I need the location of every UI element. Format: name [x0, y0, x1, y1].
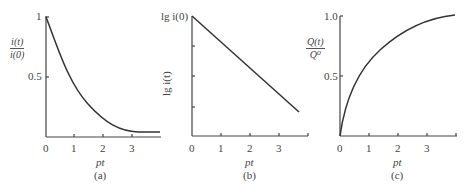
panel-c-caption: (c) [391, 170, 403, 181]
panel-b-xtick-1: 1 [218, 143, 224, 154]
panel-c-ylabel-numerator: Q(t) [306, 37, 325, 49]
panel-c-xtick-1: 1 [366, 143, 372, 154]
panel-a-ytick-0.5: 0.5 [28, 71, 42, 82]
panel-a-ylabel: i(t) i(0) [10, 37, 24, 60]
panel-c-ylabel: Q(t) Q⁰ [306, 37, 325, 60]
panel-b-ytick-top: lg i(0) [161, 11, 188, 22]
panel-b-xlabel: pt [245, 157, 254, 168]
panel-c-axes [340, 16, 457, 136]
panel-c-xlabel: pt [393, 157, 402, 168]
panel-c-ylabel-denominator: Q⁰ [306, 49, 325, 60]
panel-c-growth-curve [340, 15, 455, 136]
panel-b-axes [192, 16, 308, 136]
panel-a-xtick-0: 0 [43, 143, 49, 154]
panel-c-xtick-2: 2 [395, 143, 401, 154]
panel-b-log-line [192, 16, 299, 112]
panel-c-ytick-0.5: 0.5 [324, 71, 338, 82]
panel-b-xtick-0: 0 [189, 143, 195, 154]
panel-b-xtick-2: 2 [247, 143, 253, 154]
panel-b-caption: (b) [243, 170, 256, 181]
panel-a-xtick-1: 1 [71, 143, 77, 154]
panel-a-ylabel-numerator: i(t) [10, 37, 24, 49]
panel-a-ylabel-denominator: i(0) [10, 49, 24, 60]
panel-c-xtick-0: 0 [337, 143, 343, 154]
panel-b-ylabel: lg i(t) [160, 71, 172, 96]
panel-c-xtick-3: 3 [424, 143, 430, 154]
panel-a-xtick-3: 3 [129, 143, 135, 154]
panel-a-caption: (a) [94, 170, 106, 181]
panel-c-ytick-1.0: 1.0 [324, 11, 338, 22]
panel-a-xlabel: pt [96, 157, 105, 168]
panel-a-decay-curve [46, 17, 160, 132]
panel-a-xtick-2: 2 [100, 143, 106, 154]
panel-b-xtick-3: 3 [276, 143, 282, 154]
panel-a-ytick-1: 1 [36, 11, 42, 22]
